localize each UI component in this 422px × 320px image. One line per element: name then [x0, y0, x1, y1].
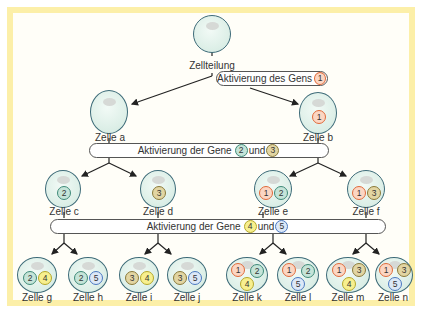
gene-4: 4: [342, 277, 356, 291]
gene-badge-2: 2: [235, 144, 248, 157]
gene-1: 1: [379, 263, 393, 277]
gene-4: 4: [140, 271, 154, 285]
activation-bar-genes-2-3: Aktivierung der Gene 2 und 3: [89, 143, 329, 158]
gene-1: 1: [332, 263, 346, 277]
gene-3: 3: [152, 186, 166, 200]
cell-c: 2: [45, 170, 81, 208]
gene-badge-4: 4: [244, 220, 257, 233]
cell-g: 2 4: [17, 257, 57, 293]
gene-1: 1: [282, 263, 296, 277]
cell-label-m: Zelle m: [332, 292, 365, 304]
gene-4: 4: [240, 277, 254, 291]
cell-f: 1 3: [347, 170, 385, 208]
nucleus: [103, 98, 116, 106]
gene-3: 3: [397, 263, 411, 277]
nucleus: [312, 99, 325, 107]
gene-1: 1: [352, 186, 366, 200]
bar-joiner: und: [258, 221, 275, 232]
gene-2: 2: [274, 186, 288, 200]
nucleus: [206, 22, 219, 30]
gene-3: 3: [173, 271, 187, 285]
cell-k: 1 2 4: [226, 257, 268, 293]
cell-e: 1 2: [254, 170, 292, 208]
bar-joiner: und: [249, 145, 266, 156]
gene-1: 1: [231, 263, 245, 277]
cell-label-i: Zelle i: [126, 292, 153, 304]
cell-h: 2 5: [68, 257, 108, 293]
cell-label-j: Zelle j: [174, 292, 201, 304]
nucleus: [152, 176, 165, 184]
cell-b: 1: [299, 92, 337, 134]
gene-2: 2: [74, 271, 88, 285]
gene-5: 5: [291, 277, 305, 291]
nucleus: [133, 262, 146, 270]
gene-2: 2: [250, 264, 264, 278]
gene-4: 4: [38, 271, 52, 285]
gene-1: 1: [312, 110, 326, 124]
cell-j: 3 5: [167, 257, 207, 293]
gene-2: 2: [57, 186, 71, 200]
cell-label-e: Zelle e: [258, 206, 288, 218]
gene-badge-1: 1: [314, 72, 326, 85]
cell-n: 1 3 5: [375, 257, 413, 293]
gene-2: 2: [301, 264, 315, 278]
nucleus: [57, 176, 70, 184]
gene-badge-3: 3: [266, 144, 279, 157]
gene-3: 3: [367, 186, 381, 200]
cell-label-d: Zelle d: [143, 206, 173, 218]
nucleus: [181, 262, 194, 270]
nucleus: [31, 262, 44, 270]
cell-label-k: Zelle k: [232, 292, 261, 304]
gene-badge-5: 5: [275, 220, 288, 233]
gene-5: 5: [89, 271, 103, 285]
cell-i: 3 4: [119, 257, 159, 293]
gene-1: 1: [259, 186, 273, 200]
nucleus: [360, 176, 373, 184]
gene-5: 5: [188, 271, 202, 285]
bar-text: Aktivierung des Gens: [217, 73, 312, 84]
activation-bar-genes-4-5: Aktivierung der Gene 4 und 5: [50, 219, 386, 234]
cell-label-l: Zelle l: [285, 292, 312, 304]
bar-text: Aktivierung der Gene: [147, 221, 241, 232]
cell-l: 1 2 5: [277, 257, 319, 293]
root-cell: [193, 15, 231, 53]
cell-a: [90, 90, 128, 134]
cell-label-f: Zelle f: [352, 206, 379, 218]
bar-text: Aktivierung der Gene: [138, 145, 232, 156]
cell-label-c: Zelle c: [49, 206, 78, 218]
nucleus: [82, 262, 95, 270]
nucleus: [267, 176, 280, 184]
activation-bar-gene-1: Aktivierung des Gens 1: [216, 71, 328, 86]
cell-m: 1 3 4: [326, 257, 370, 293]
gene-2: 2: [23, 271, 37, 285]
cell-label-g: Zelle g: [22, 292, 52, 304]
cell-label-h: Zelle h: [73, 292, 103, 304]
gene-3: 3: [125, 271, 139, 285]
cell-label-n: Zelle n: [378, 292, 408, 304]
gene-3: 3: [352, 263, 366, 277]
gene-5: 5: [388, 277, 402, 291]
cell-d: 3: [140, 170, 176, 208]
